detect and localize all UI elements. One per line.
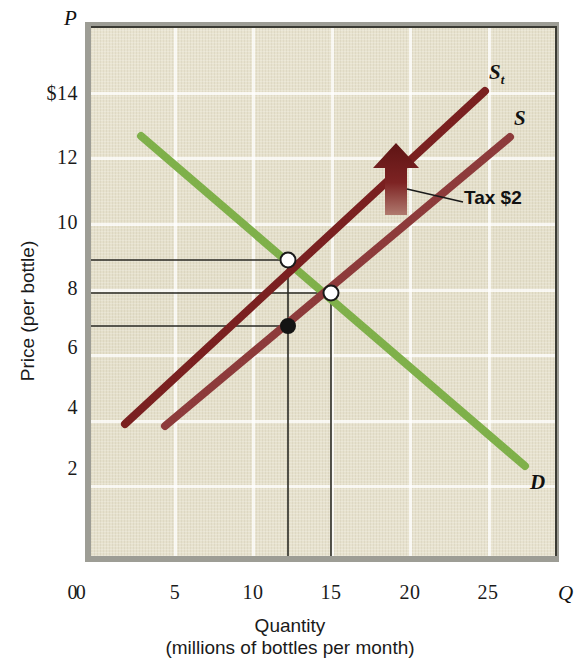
y-tick-14: $14 bbox=[0, 82, 78, 105]
x-tick-20: 20 bbox=[390, 581, 430, 604]
demand-label: D bbox=[530, 470, 545, 495]
x-tick-15: 15 bbox=[311, 581, 351, 604]
x-axis-title-line2: (millions of bottles per month) bbox=[0, 637, 580, 659]
supply-tax-label: St bbox=[489, 60, 504, 88]
point-new-equilibrium bbox=[281, 253, 296, 268]
point-original-equilibrium bbox=[324, 286, 339, 301]
supply-tax-label-text: S bbox=[489, 60, 501, 84]
y-tick-10: 10 bbox=[0, 211, 78, 234]
y-tick-12: 12 bbox=[0, 146, 78, 169]
supply-curve bbox=[165, 137, 510, 426]
y-axis-symbol: P bbox=[64, 6, 77, 31]
point-seller-receives bbox=[281, 319, 295, 333]
x-tick-25: 25 bbox=[468, 581, 508, 604]
curves-layer bbox=[91, 26, 557, 556]
x-axis-title-line1: Quantity bbox=[0, 615, 580, 637]
x-tick-5: 5 bbox=[155, 581, 195, 604]
y-axis-title: Price (per bottle) bbox=[17, 211, 39, 411]
plot-area bbox=[91, 26, 557, 556]
y-tick-8: 8 bbox=[0, 277, 78, 300]
supply-tax-label-sub: t bbox=[501, 72, 505, 87]
y-tick-6: 6 bbox=[0, 336, 78, 359]
guide-lines bbox=[91, 260, 335, 556]
y-tick-4: 4 bbox=[0, 396, 78, 419]
y-tick-2: 2 bbox=[0, 457, 78, 480]
x-axis-symbol: Q bbox=[558, 581, 573, 606]
x-tick-0: 0 bbox=[61, 581, 101, 604]
supply-tax-curve bbox=[125, 91, 485, 424]
x-tick-10: 10 bbox=[233, 581, 273, 604]
supply-label: S bbox=[514, 106, 526, 131]
tax-annotation-label: Tax $2 bbox=[464, 187, 522, 209]
